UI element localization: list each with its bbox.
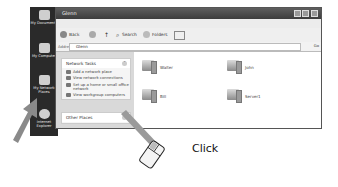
pointer-arrow-icon: [13, 98, 37, 143]
mouse-icon: [139, 140, 166, 169]
click-annotation: Click: [192, 142, 218, 155]
annotation-overlay: [0, 0, 338, 187]
